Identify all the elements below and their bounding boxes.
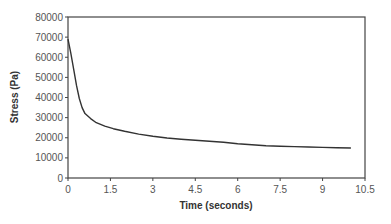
x-axis-ticks: 01.534.567.5910.5: [65, 178, 375, 195]
y-tick-label: 80000: [35, 12, 63, 23]
y-tick-label: 10000: [35, 152, 63, 163]
x-tick-label: 9: [320, 184, 326, 195]
y-tick-label: 70000: [35, 32, 63, 43]
x-axis-title: Time (seconds): [179, 200, 252, 211]
x-tick-label: 7.5: [273, 184, 287, 195]
x-tick-label: 0: [65, 184, 71, 195]
x-tick-label: 3: [150, 184, 156, 195]
x-tick-label: 1.5: [103, 184, 117, 195]
x-tick-label: 10.5: [355, 184, 375, 195]
y-tick-label: 60000: [35, 52, 63, 63]
stress-time-chart: 0100002000030000400005000060000700008000…: [0, 0, 391, 224]
x-tick-label: 4.5: [188, 184, 202, 195]
y-tick-label: 30000: [35, 112, 63, 123]
y-tick-label: 20000: [35, 132, 63, 143]
y-axis-title: Stress (Pa): [9, 71, 20, 123]
y-tick-label: 40000: [35, 92, 63, 103]
x-tick-label: 6: [235, 184, 241, 195]
stress-curve: [68, 39, 351, 148]
plot-area: [68, 17, 365, 178]
y-axis-ticks: 0100002000030000400005000060000700008000…: [35, 12, 68, 184]
y-tick-label: 0: [57, 173, 63, 184]
y-tick-label: 50000: [35, 72, 63, 83]
